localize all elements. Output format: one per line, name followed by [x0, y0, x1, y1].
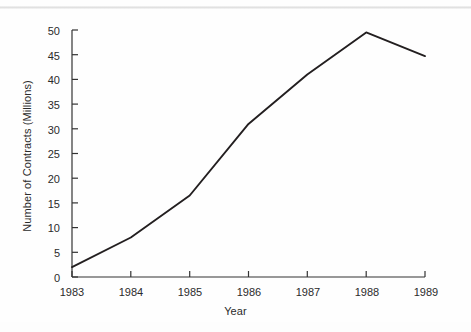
x-axis-ticks: [72, 271, 425, 277]
data-series-line: [72, 32, 425, 267]
line-chart: Number of Contracts (Millions) Year 0 5 …: [0, 0, 471, 332]
chart-canvas: [0, 0, 471, 332]
chart-page: Number of Contracts (Millions) Year 0 5 …: [0, 0, 471, 332]
y-axis-ticks: [72, 30, 78, 277]
